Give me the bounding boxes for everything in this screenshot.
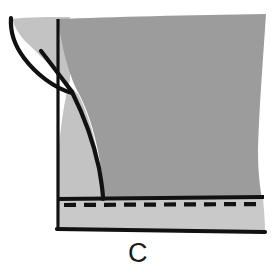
figure-caption-label: C (0, 237, 276, 269)
bottom-edge-line (57, 229, 265, 232)
garment-diagram (0, 0, 276, 273)
figure-container: C (0, 0, 276, 273)
hem-fold-line (57, 197, 264, 199)
